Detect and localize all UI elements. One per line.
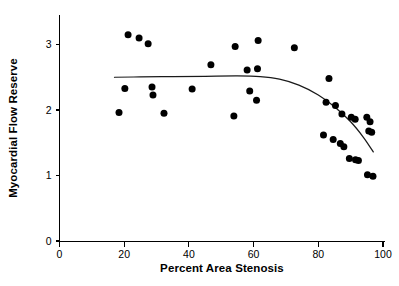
x-tick-label: 60: [248, 248, 260, 260]
y-tick-label: 1: [46, 169, 52, 181]
data-point: [246, 88, 253, 95]
y-tick-label: 0: [46, 235, 52, 247]
x-axis-label: Percent Area Stenosis: [160, 262, 284, 274]
data-point: [244, 67, 251, 74]
y-tick-label: 2: [46, 104, 52, 116]
chart-figure: 0123 020406080100 Percent Area Stenosis …: [0, 0, 399, 286]
data-point: [355, 157, 362, 164]
data-point: [149, 91, 156, 98]
x-tick-label: 20: [118, 248, 130, 260]
data-point: [232, 43, 239, 50]
y-tick-label: 3: [46, 38, 52, 50]
x-tick-label: 80: [312, 248, 324, 260]
data-point: [369, 173, 376, 180]
data-point: [291, 44, 298, 51]
x-tick-label: 100: [374, 248, 392, 260]
x-tick-label: 0: [57, 248, 63, 260]
data-point: [125, 31, 132, 38]
y-axis-label: Myocardial Flow Reserve: [7, 58, 19, 198]
data-point: [254, 65, 261, 72]
data-point: [145, 40, 152, 47]
data-point: [160, 110, 167, 117]
data-point: [346, 155, 353, 162]
data-point: [253, 97, 260, 104]
data-point: [121, 85, 128, 92]
data-point: [332, 102, 339, 109]
data-points-group: [116, 31, 377, 179]
data-point: [323, 99, 330, 106]
data-point: [340, 143, 347, 150]
data-point: [136, 34, 143, 41]
data-point: [368, 129, 375, 136]
scatter-plot: 0123 020406080100 Percent Area Stenosis …: [0, 0, 399, 286]
data-point: [230, 112, 237, 119]
x-tick-label: 40: [183, 248, 195, 260]
data-point: [352, 116, 359, 123]
data-point: [367, 118, 374, 125]
y-axis-ticks: 0123: [46, 38, 60, 247]
data-point: [189, 86, 196, 93]
data-point: [330, 136, 337, 143]
data-point: [320, 131, 327, 138]
data-point: [255, 37, 262, 44]
data-point: [207, 61, 214, 68]
data-point: [149, 84, 156, 91]
data-point: [116, 109, 123, 116]
data-point: [325, 75, 332, 82]
data-point: [338, 110, 345, 117]
x-axis-ticks: 020406080100: [57, 242, 392, 261]
